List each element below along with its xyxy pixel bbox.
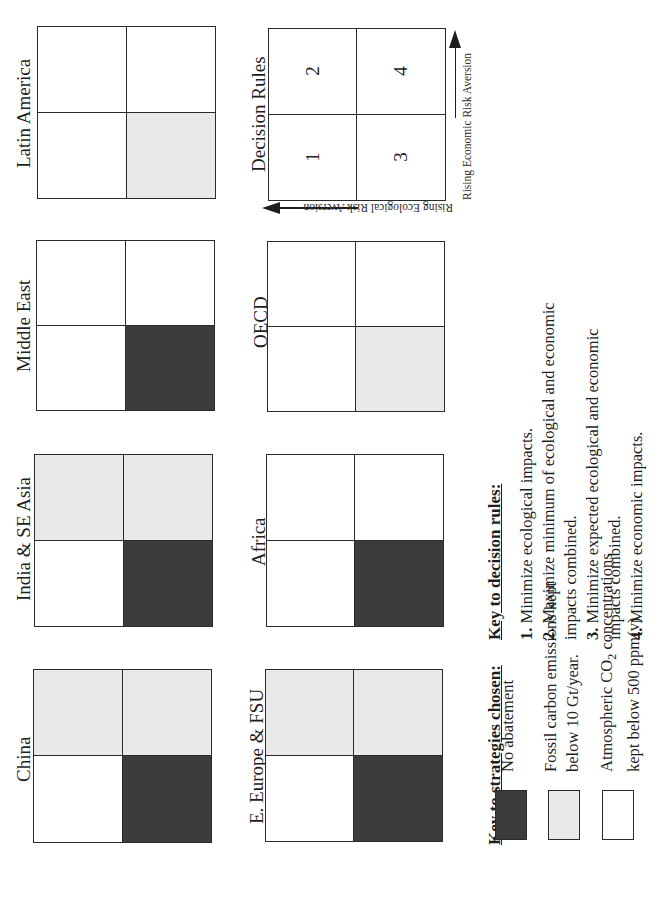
quadrant-top-right (127, 27, 216, 113)
region-label-china: China (14, 737, 33, 782)
legend-line: Atmospheric CO2 concentrations (596, 553, 623, 772)
rule-cell-top-left: 2 (269, 29, 357, 115)
ecological-arrow-head-icon (262, 202, 280, 214)
economic-axis-arrow-shaft (455, 40, 457, 118)
decision-rules-label: Decision Rules (249, 56, 268, 172)
quadrant-bottom-right (355, 541, 443, 627)
region-grid-middle-east (36, 240, 215, 411)
ecological-axis-label: Rising Ecological Risk Aversion (303, 202, 453, 214)
region-grid-india-se-asia (34, 454, 213, 627)
rule-cell-bottom-right: 3 (357, 115, 445, 201)
quadrant-top-left (35, 455, 124, 541)
region-grid-latin-america (37, 26, 216, 199)
key-decision-rules-title: Key to decision rules: (484, 302, 506, 640)
legend-text-no-abatement: No abatement (497, 680, 519, 772)
quadrant-top-left (266, 670, 354, 756)
quadrant-bottom-left (266, 756, 354, 842)
legend-line: No abatement (497, 680, 519, 772)
quadrant-top-right (126, 241, 215, 326)
quadrant-top-right (124, 455, 213, 541)
legend-line: kept below 500 ppm(v) (623, 553, 645, 772)
region-grid-china (33, 669, 212, 843)
region-grid-e-europe-fsu (265, 669, 443, 842)
rule-number: 1 (302, 153, 324, 163)
economic-arrow-head-icon (449, 30, 461, 48)
legend-swatch-emissions-cap (548, 790, 580, 840)
decision-rule-1: 1. Minimize ecological impacts. (516, 302, 538, 640)
quadrant-bottom-right (356, 327, 444, 412)
quadrant-bottom-left (35, 541, 124, 627)
quadrant-top-left (38, 27, 127, 113)
quadrant-bottom-left (37, 326, 126, 411)
legend-text-suffix: concentrations (597, 553, 616, 653)
legend-swatch-no-abatement (495, 790, 527, 840)
quadrant-bottom-left (34, 756, 123, 842)
rule-number: 3 (390, 153, 412, 163)
quadrant-bottom-left (38, 113, 127, 199)
region-label-latin-america: Latin America (14, 59, 33, 168)
region-grid-oecd (267, 241, 445, 412)
region-label-middle-east: Middle East (14, 280, 33, 372)
quadrant-bottom-left (268, 327, 356, 412)
quadrant-bottom-right (354, 756, 442, 842)
rule-number: 4 (390, 67, 412, 77)
legend-text-co2-cap: Atmospheric CO2 concentrations kept belo… (596, 553, 645, 772)
subscript-2: 2 (605, 654, 619, 660)
rule-cell-bottom-left: 1 (269, 115, 357, 201)
rule-number: 1. (517, 628, 536, 640)
legend-line: Fossil carbon emissions kept (540, 582, 562, 772)
legend-line: below 10 Gt/year. (562, 582, 584, 772)
quadrant-top-left (267, 455, 355, 541)
quadrant-bottom-right (126, 326, 215, 411)
quadrant-bottom-left (267, 541, 355, 627)
quadrant-top-left (37, 241, 126, 326)
legend-swatch-co2-cap (602, 790, 634, 840)
legend-text-prefix: Atmospheric CO (597, 660, 616, 772)
rule-text: Maximize minimum of ecological and econo… (539, 302, 558, 623)
quadrant-top-left (268, 242, 356, 327)
region-label-e-europe-fsu: E. Europe & FSU (247, 689, 266, 824)
quadrant-bottom-right (127, 113, 216, 199)
quadrant-bottom-right (123, 756, 212, 842)
region-label-india-se-asia: India & SE Asia (14, 477, 33, 601)
quadrant-top-right (354, 670, 442, 756)
legend-text-emissions-cap: Fossil carbon emissions kept below 10 Gt… (540, 582, 584, 772)
rule-cell-top-right: 4 (357, 29, 445, 115)
economic-axis-label: Rising Economic Risk Aversion (462, 53, 474, 200)
quadrant-top-right (123, 670, 212, 756)
quadrant-top-right (356, 242, 444, 327)
region-grid-africa (266, 454, 444, 627)
rule-number: 2 (302, 67, 324, 77)
rule-text: Minimize ecological impacts. (517, 428, 536, 624)
quadrant-bottom-right (124, 541, 213, 627)
decision-rules-grid: 2 4 1 3 (268, 28, 446, 201)
quadrant-top-left (34, 670, 123, 756)
quadrant-top-right (355, 455, 443, 541)
